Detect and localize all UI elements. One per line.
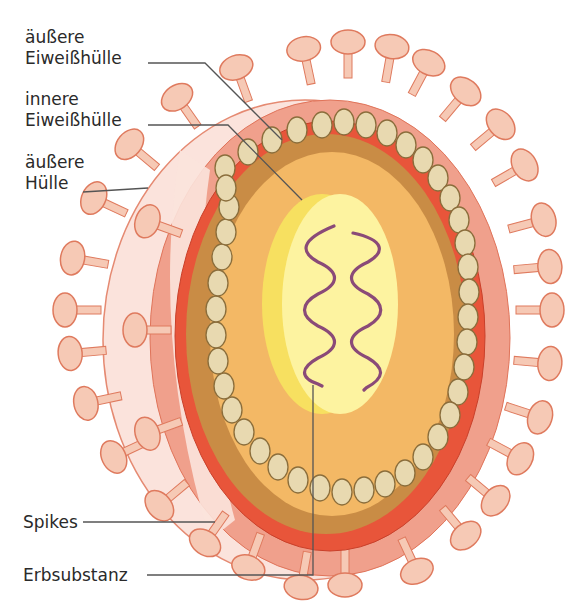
virus-diagram: äußere Eiweißhülle innere Eiweißhülle äu…	[0, 0, 571, 605]
label-erbsubstanz: Erbsubstanz	[23, 565, 128, 586]
label-aeussere-huelle: äußere Hülle	[25, 152, 84, 194]
label-spikes: Spikes	[23, 512, 78, 533]
label-aeussere-eiweisshuelle: äußere Eiweißhülle	[25, 27, 122, 69]
label-innere-eiweisshuelle: innere Eiweißhülle	[25, 89, 122, 131]
